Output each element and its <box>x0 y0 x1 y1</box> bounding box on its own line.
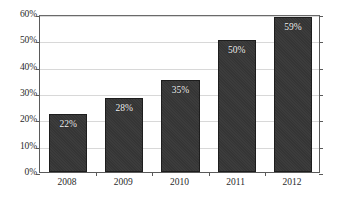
bar-value-label: 35% <box>162 86 198 96</box>
y-axis-tick-mark-right <box>319 148 323 149</box>
bar: 22% <box>49 114 87 172</box>
y-axis-tick-label: 0% <box>3 168 37 178</box>
bar-value-label: 59% <box>275 23 311 33</box>
y-axis-tick-label: 10% <box>3 142 37 152</box>
y-axis-tick-mark-right <box>319 69 323 70</box>
y-axis-tick-mark <box>36 69 40 70</box>
y-axis-tick-mark <box>36 174 40 175</box>
y-axis-tick-labels: 0%10%20%30%40%50%60% <box>0 0 37 204</box>
y-axis-tick-label: 50% <box>3 37 37 47</box>
y-axis-tick-label: 30% <box>3 89 37 99</box>
y-axis-tick-label: 40% <box>3 63 37 73</box>
bar-value-label: 28% <box>106 104 142 114</box>
x-axis-tick-mark <box>96 172 97 176</box>
bar-value-label: 50% <box>219 46 255 56</box>
y-axis-tick-mark <box>36 148 40 149</box>
y-axis-tick-mark-right <box>319 121 323 122</box>
bar: 59% <box>274 17 312 172</box>
y-axis-tick-mark-right <box>319 95 323 96</box>
x-axis-tick-label: 2008 <box>58 178 77 188</box>
y-axis-tick-mark-right <box>319 16 323 17</box>
bar-chart: 0%10%20%30%40%50%60% 22%28%35%50%59% 200… <box>0 0 338 204</box>
x-axis-tick-mark <box>265 172 266 176</box>
plot-area: 22%28%35%50%59% <box>40 16 319 172</box>
y-axis-tick-mark-right <box>319 174 323 175</box>
x-axis-tick-label: 2011 <box>226 178 245 188</box>
y-axis-tick-mark <box>36 16 40 17</box>
y-axis-tick-mark <box>36 121 40 122</box>
y-axis-tick-mark <box>36 95 40 96</box>
y-axis-tick-mark <box>36 42 40 43</box>
x-axis-tick-label: 2012 <box>282 178 301 188</box>
bar: 50% <box>218 40 256 172</box>
y-axis-tick-label: 60% <box>3 10 37 20</box>
bar-value-label: 22% <box>50 120 86 130</box>
bar: 28% <box>105 98 143 172</box>
plot-frame: 22%28%35%50%59% <box>39 15 320 173</box>
x-axis-tick-label: 2009 <box>114 178 133 188</box>
x-axis-tick-labels: 20082009201020112012 <box>39 178 320 198</box>
y-axis-tick-label: 20% <box>3 116 37 126</box>
x-axis-tick-mark <box>209 172 210 176</box>
bar: 35% <box>161 80 199 172</box>
y-axis-tick-mark-right <box>319 42 323 43</box>
x-axis-tick-label: 2010 <box>170 178 189 188</box>
x-axis-tick-mark <box>152 172 153 176</box>
